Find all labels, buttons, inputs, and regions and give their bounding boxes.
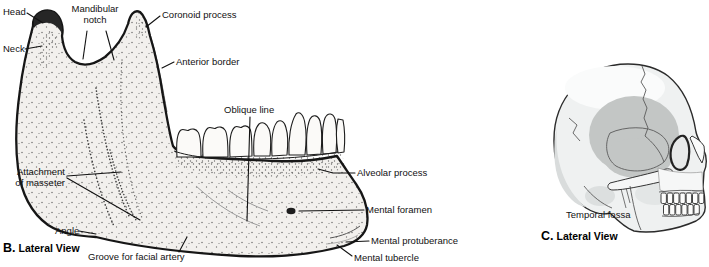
leader-line-coronoid-process bbox=[146, 16, 160, 27]
skull-illustration bbox=[554, 64, 706, 232]
leader-line-mandibular-notch-left bbox=[83, 31, 87, 59]
label-neck: Neck bbox=[3, 44, 25, 55]
label-alveolar-process: Alveolar process bbox=[357, 168, 427, 179]
tooth-incisor-1 bbox=[307, 116, 322, 155]
mental-foramen-dot bbox=[287, 208, 296, 214]
mandible-illustration bbox=[16, 10, 369, 256]
panel-c-caption: C.Lateral View bbox=[541, 229, 618, 243]
tooth-incisor-2 bbox=[322, 114, 336, 154]
teeth-row bbox=[177, 113, 345, 157]
leader-line-anterior-border bbox=[162, 62, 174, 68]
tooth-molar-2 bbox=[203, 127, 228, 157]
panel-b-letter: B. bbox=[3, 241, 16, 255]
panel-c-letter: C. bbox=[541, 229, 554, 243]
label-groove-for-facial-artery: Groove for facial artery bbox=[88, 252, 185, 263]
label-anterior-border: Anterior border bbox=[176, 57, 239, 68]
label-temporal-fossa: Temporal fossa bbox=[566, 210, 630, 221]
tooth-premolar-1 bbox=[254, 123, 271, 156]
panel-b-title: Lateral View bbox=[19, 242, 80, 254]
anatomy-artwork bbox=[0, 0, 709, 267]
label-oblique-line: Oblique line bbox=[224, 105, 274, 116]
panel-c-title: Lateral View bbox=[557, 230, 618, 242]
tooth-premolar-2 bbox=[272, 121, 288, 156]
figure-canvas: Head Mandibular notch Coronoid process N… bbox=[0, 0, 709, 267]
label-mandibular-notch: Mandibular notch bbox=[64, 4, 126, 25]
tooth-canine bbox=[289, 113, 306, 155]
label-angle: Angle bbox=[55, 226, 79, 237]
label-mental-tubercle: Mental tubercle bbox=[354, 253, 419, 264]
ramus-shading bbox=[38, 44, 50, 68]
tooth-incisor-edge bbox=[337, 119, 345, 153]
label-mental-protuberance: Mental protuberance bbox=[371, 236, 458, 247]
label-mental-foramen: Mental foramen bbox=[366, 205, 432, 216]
label-attachment-of-masseter: Attachment of masseter bbox=[8, 167, 65, 188]
label-head: Head bbox=[3, 7, 26, 18]
label-coronoid-process: Coronoid process bbox=[162, 10, 236, 21]
panel-b-caption: B.Lateral View bbox=[3, 241, 80, 255]
